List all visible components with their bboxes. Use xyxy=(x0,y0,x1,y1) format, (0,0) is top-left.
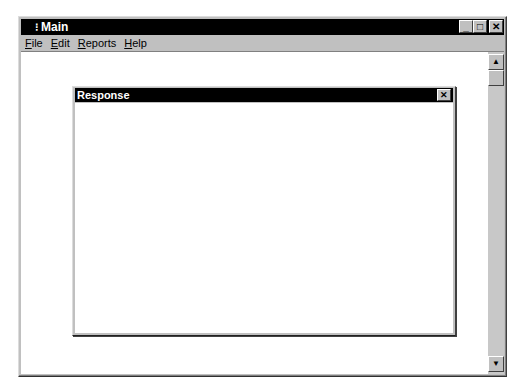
menu-bar: File Edit Reports Help xyxy=(21,35,504,51)
menu-file-label: ile xyxy=(32,37,43,49)
menu-reports-mnemonic: R xyxy=(78,37,86,49)
response-window-title: Response xyxy=(77,88,130,102)
menu-help-mnemonic: H xyxy=(124,37,132,49)
response-title-bar[interactable]: Response ✕ xyxy=(75,88,453,102)
menu-help[interactable]: Help xyxy=(120,35,151,51)
menu-help-label: elp xyxy=(132,37,147,49)
response-content-area xyxy=(75,103,453,333)
system-menu-icon[interactable]: ⁝ xyxy=(35,19,39,35)
menu-edit-mnemonic: E xyxy=(51,37,58,49)
main-window-title: Main xyxy=(41,19,68,35)
vertical-scrollbar[interactable]: ▲ ▼ xyxy=(488,52,504,374)
maximize-button[interactable]: □ xyxy=(473,20,487,33)
close-button[interactable]: ✕ xyxy=(489,20,503,33)
menu-file-mnemonic: F xyxy=(25,37,32,49)
menu-file[interactable]: File xyxy=(21,35,47,51)
menu-edit-label: dit xyxy=(58,37,70,49)
scroll-down-arrow-icon[interactable]: ▼ xyxy=(488,356,504,372)
menu-edit[interactable]: Edit xyxy=(47,35,74,51)
menu-reports[interactable]: Reports xyxy=(74,35,121,51)
scroll-thumb[interactable] xyxy=(488,70,504,86)
main-title-bar[interactable]: ⁝ Main _ □ ✕ xyxy=(21,19,504,35)
response-close-button[interactable]: ✕ xyxy=(437,89,451,101)
response-window: Response ✕ xyxy=(72,86,456,336)
minimize-button[interactable]: _ xyxy=(459,20,473,33)
scroll-up-arrow-icon[interactable]: ▲ xyxy=(488,54,504,70)
menu-reports-label: eports xyxy=(86,37,117,49)
